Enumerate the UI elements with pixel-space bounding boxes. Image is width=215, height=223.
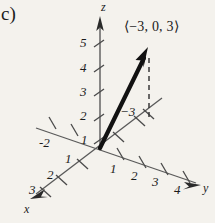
z-tick-5: 5 xyxy=(80,36,87,49)
y-axis-negative-ticks xyxy=(49,117,78,136)
z-axis-ticks xyxy=(94,40,104,144)
y-axis-arrowhead xyxy=(183,182,201,190)
y-tick-2: 2 xyxy=(131,169,138,182)
z-tick-1: 1 xyxy=(81,133,88,146)
x-axis-label: x xyxy=(24,203,29,215)
y-tick-3: 3 xyxy=(152,175,159,188)
vector-label: ⟨−3, 0, 3⟩ xyxy=(124,20,179,34)
z-tick-4: 4 xyxy=(80,61,87,74)
projection-value-label: −3 xyxy=(120,105,135,118)
z-tick-3: 3 xyxy=(80,85,87,98)
x-axis-ticks xyxy=(56,159,88,185)
z-tick-2: 2 xyxy=(80,109,87,122)
x-tick-1: 1 xyxy=(65,152,72,165)
z-axis-group xyxy=(94,16,104,148)
y-tick-negative-2: -2 xyxy=(39,136,50,149)
vector-arrow xyxy=(100,47,148,148)
part-label: c) xyxy=(1,4,16,23)
x-tick-2: 2 xyxy=(47,168,54,181)
y-axis-label: y xyxy=(203,182,208,194)
z-axis-label: z xyxy=(101,1,106,13)
vector-diagram-figure: c) ⟨−3, 0, 3⟩ z y x 1 2 3 4 5 1 2 3 4 -2… xyxy=(0,0,215,223)
y-tick-4: 4 xyxy=(174,183,181,196)
vector-shaft xyxy=(100,58,144,148)
y-tick-1: 1 xyxy=(110,162,117,175)
x-tick-3: 3 xyxy=(29,183,36,196)
